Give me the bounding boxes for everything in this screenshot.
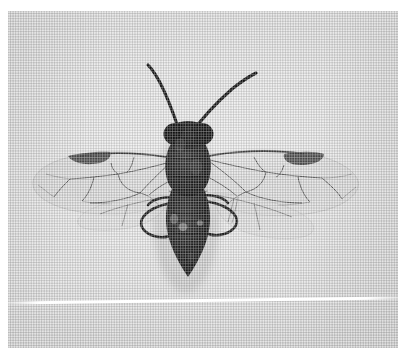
page-root: sawfly dorsal halftone-printed-black-and… [0,0,405,361]
specimen-photograph [8,11,398,348]
